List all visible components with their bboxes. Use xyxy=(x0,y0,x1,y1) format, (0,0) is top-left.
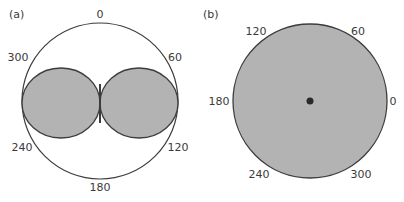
angle-label-120: 120 xyxy=(168,141,189,154)
angle-label-60: 60 xyxy=(168,51,182,64)
left-lobe xyxy=(22,68,100,138)
angle-label-180: 180 xyxy=(90,181,111,194)
angle-label-240: 240 xyxy=(12,141,33,154)
angle-label-240: 240 xyxy=(249,168,270,181)
source-point xyxy=(307,98,314,105)
angle-label-60: 60 xyxy=(351,25,365,38)
angle-label-300: 300 xyxy=(8,51,29,64)
panel-b: (b) 0 60 120 180 240 300 xyxy=(203,8,397,181)
panel-b-label: (b) xyxy=(203,8,219,21)
angle-label-300: 300 xyxy=(351,168,372,181)
angle-label-180: 180 xyxy=(209,95,230,108)
angle-label-0: 0 xyxy=(97,8,104,21)
angle-label-0: 0 xyxy=(390,95,397,108)
right-lobe xyxy=(100,68,178,138)
angle-label-120: 120 xyxy=(246,25,267,38)
panel-a-label: (a) xyxy=(9,8,24,21)
panel-a: (a) 0 60 120 180 240 300 xyxy=(8,8,189,194)
figure: (a) 0 60 120 180 240 300 (b) 0 60 120 18… xyxy=(0,0,404,202)
